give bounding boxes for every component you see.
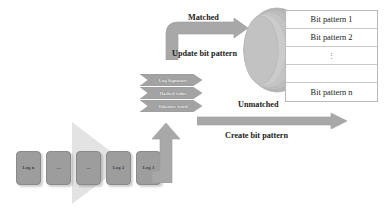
table-row-ellipsis: ⋮ xyxy=(286,47,377,65)
ellipsis-label: ⋮ xyxy=(328,52,335,60)
bit-pattern-label: Bit pattern n xyxy=(311,88,353,97)
unmatched-flow-arrow-icon xyxy=(197,113,347,133)
log-box-label: — xyxy=(56,166,61,171)
pipeline-step-tokenize-word: Tokenize word xyxy=(140,100,202,112)
pipeline-step-label: Hashed value xyxy=(140,87,202,99)
log-box: Log n xyxy=(16,151,41,185)
log-sequence: Log n — — Log 2 Log 1 xyxy=(16,151,161,185)
log-box-label: Log n xyxy=(23,166,35,171)
table-row: Bit pattern 1 xyxy=(286,11,377,29)
bit-pattern-label: Bit pattern 2 xyxy=(311,33,353,42)
diagram-canvas: Log n — — Log 2 Log 1 Log Signature xyxy=(0,0,385,209)
pipeline-steps: Log Signature Hashed value Tokenize word xyxy=(140,74,202,113)
table-row: Bit pattern 2 xyxy=(286,29,377,47)
pipeline-step-label: Log Signature xyxy=(140,74,202,86)
update-bit-pattern-label: Update bit pattern xyxy=(172,49,237,58)
pipeline-step-hashed-value: Hashed value xyxy=(140,87,202,99)
bit-pattern-label: Bit pattern 1 xyxy=(311,15,353,24)
table-row-blank xyxy=(286,65,377,83)
matched-condition-label: Matched xyxy=(188,13,219,22)
unmatched-condition-label: Unmatched xyxy=(238,100,278,109)
pipeline-step-log-signature: Log Signature xyxy=(140,74,202,86)
log-box-label: — xyxy=(86,166,91,171)
log-box: Log 2 xyxy=(106,151,131,185)
log-to-pipeline-arrow-icon xyxy=(150,121,186,187)
log-box: — xyxy=(46,151,71,185)
create-bit-pattern-label: Create bit pattern xyxy=(225,131,288,140)
pipeline-step-label: Tokenize word xyxy=(140,100,202,112)
log-box-label: Log 2 xyxy=(113,166,125,171)
table-row: Bit pattern n xyxy=(286,83,377,101)
bit-pattern-table: Bit pattern 1 Bit pattern 2 ⋮ Bit patter… xyxy=(285,10,378,102)
log-box: — xyxy=(76,151,101,185)
